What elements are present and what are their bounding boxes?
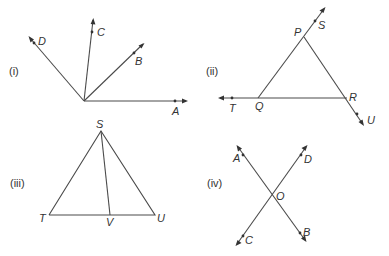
figure-label-iii: (iii) <box>10 177 25 189</box>
point-d <box>33 42 36 45</box>
label-p: P <box>294 26 302 38</box>
arrow-head-icon <box>218 96 224 101</box>
line-cd <box>237 147 306 244</box>
point-a <box>242 154 245 157</box>
figure-label-ii: (ii) <box>206 65 218 77</box>
arrow-head-icon <box>320 7 326 13</box>
label-r: R <box>349 91 357 103</box>
label-s: S <box>96 118 104 130</box>
point-d <box>300 154 303 157</box>
arrow-head-icon <box>236 240 242 246</box>
label-c: C <box>245 234 253 246</box>
line-qs <box>258 9 324 98</box>
label-b: B <box>303 226 310 238</box>
label-a: A <box>171 105 179 117</box>
figure-i: (i) A B C D <box>9 18 188 117</box>
label-s: S <box>318 19 326 31</box>
arrow-head-icon <box>182 99 188 104</box>
label-a: A <box>232 152 240 164</box>
label-b: B <box>135 55 142 67</box>
figure-label-iv: (iv) <box>207 177 222 189</box>
label-t: T <box>39 212 47 224</box>
line-pu <box>304 37 362 123</box>
label-d: D <box>304 153 312 165</box>
label-u: U <box>367 114 375 126</box>
geometry-figures: (i) A B C D (ii) T S U P Q R <box>0 0 389 256</box>
point-s <box>314 20 317 23</box>
point-t <box>231 97 234 100</box>
figure-ii: (ii) T S U P Q R <box>206 7 375 126</box>
label-v: V <box>106 216 115 228</box>
label-u: U <box>157 212 165 224</box>
figure-iv: (iv) A D O C B <box>207 145 312 246</box>
arrow-head-icon <box>359 120 365 127</box>
arrow-head-icon <box>302 145 308 151</box>
label-q: Q <box>255 100 264 112</box>
label-o: O <box>276 190 285 202</box>
figure-iii: (iii) S T U V <box>10 118 165 228</box>
line-ab <box>238 147 305 240</box>
figure-label-i: (i) <box>9 65 19 77</box>
label-c: C <box>97 26 105 38</box>
ray-od <box>30 38 84 101</box>
point-b <box>299 232 302 235</box>
point-b <box>133 52 136 55</box>
point-u <box>356 113 359 116</box>
label-t: T <box>229 102 237 114</box>
label-d: D <box>38 35 46 47</box>
arrow-head-icon <box>91 18 96 25</box>
point-c <box>91 31 94 34</box>
point-a <box>174 100 177 103</box>
point-c <box>242 235 245 238</box>
